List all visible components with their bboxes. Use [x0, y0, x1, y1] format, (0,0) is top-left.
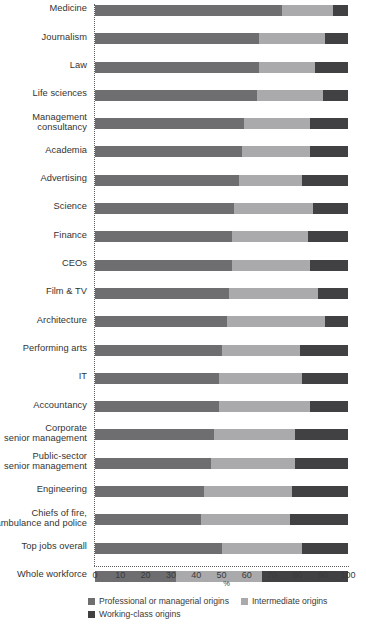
row-label: Chiefs of fire, ambulance and police: [0, 508, 87, 528]
bar-segment-professional: [95, 231, 232, 242]
stacked-bar: [95, 514, 348, 525]
chart-row: Public-sector senior management: [0, 453, 366, 481]
stacked-bar: [95, 316, 348, 327]
bar-segment-professional: [95, 146, 242, 157]
bar-segment-intermediate: [222, 345, 300, 356]
bar-segment-intermediate: [282, 5, 333, 16]
stacked-bar: [95, 118, 348, 129]
stacked-bar: [95, 203, 348, 214]
row-label: CEOs: [0, 258, 87, 268]
bar-segment-professional: [95, 316, 227, 327]
bar-segment-intermediate: [257, 90, 323, 101]
bar-segment-working: [310, 118, 348, 129]
chart-row: Accountancy: [0, 396, 366, 424]
bar-segment-professional: [95, 90, 257, 101]
chart-row: IT: [0, 368, 366, 396]
row-label: Public-sector senior management: [0, 451, 87, 471]
chart-row: Engineering: [0, 481, 366, 509]
legend-label-working: Working-class origins: [99, 609, 181, 619]
stacked-bar: [95, 62, 348, 73]
stacked-bar: [95, 543, 348, 554]
bar-segment-working: [325, 33, 348, 44]
bar-segment-intermediate: [222, 543, 303, 554]
chart-row: Medicine: [0, 0, 366, 28]
row-label: Top jobs overall: [0, 541, 87, 551]
legend-label-professional: Professional or managerial origins: [99, 596, 229, 606]
chart-row: Journalism: [0, 28, 366, 56]
chart-row: Film & TV: [0, 283, 366, 311]
stacked-bar: [95, 401, 348, 412]
bar-segment-working: [290, 514, 348, 525]
bar-segment-professional: [95, 260, 232, 271]
zero-baseline: [94, 4, 95, 566]
legend-label-intermediate: Intermediate origins: [252, 596, 327, 606]
stacked-bar: [95, 231, 348, 242]
bar-segment-professional: [95, 543, 222, 554]
bar-segment-intermediate: [234, 203, 312, 214]
stacked-bar: [95, 429, 348, 440]
chart-row: CEOs: [0, 255, 366, 283]
bar-segment-professional: [95, 203, 234, 214]
row-label: IT: [0, 371, 87, 381]
stacked-bar: [95, 288, 348, 299]
row-label: Academia: [0, 145, 87, 155]
bar-segment-intermediate: [227, 316, 326, 327]
bar-segment-intermediate: [219, 373, 302, 384]
bar-segment-working: [318, 288, 348, 299]
bar-segment-professional: [95, 458, 211, 469]
bar-segment-professional: [95, 373, 219, 384]
chart-row: Architecture: [0, 311, 366, 339]
bar-segment-professional: [95, 118, 244, 129]
chart-row: Finance: [0, 226, 366, 254]
bar-segment-working: [295, 458, 348, 469]
legend-swatch-working-icon: [88, 611, 95, 618]
row-label: Architecture: [0, 315, 87, 325]
chart-legend: Professional or managerial origins Inter…: [88, 596, 366, 622]
bar-segment-intermediate: [214, 429, 295, 440]
row-label: Film & TV: [0, 286, 87, 296]
bar-segment-working: [310, 260, 348, 271]
bar-segment-working: [295, 429, 348, 440]
bar-segment-intermediate: [219, 401, 310, 412]
bar-segment-intermediate: [211, 458, 294, 469]
legend-item-intermediate: Intermediate origins: [241, 596, 327, 606]
bar-segment-intermediate: [232, 260, 310, 271]
bar-segment-professional: [95, 429, 214, 440]
row-label: Performing arts: [0, 343, 87, 353]
x-axis-unit-label: %: [212, 579, 242, 588]
row-label: Finance: [0, 230, 87, 240]
x-axis-line: [94, 566, 349, 567]
bar-segment-working: [333, 5, 348, 16]
bar-segment-intermediate: [259, 62, 315, 73]
bar-segment-professional: [95, 33, 259, 44]
bar-segment-working: [310, 401, 348, 412]
stacked-bar: [95, 458, 348, 469]
bar-segment-intermediate: [232, 231, 308, 242]
stacked-bar: [95, 90, 348, 101]
row-label: Journalism: [0, 32, 87, 42]
stacked-bar: [95, 486, 348, 497]
x-tick-label: 100: [333, 570, 363, 580]
bar-segment-working: [323, 90, 348, 101]
bar-segment-intermediate: [244, 118, 310, 129]
chart-row: Academia: [0, 141, 366, 169]
chart-row: Law: [0, 57, 366, 85]
bar-segment-working: [313, 203, 348, 214]
x-axis-ticks: 0102030405060708090100: [0, 570, 366, 584]
bar-segment-professional: [95, 401, 219, 412]
chart-row: Chiefs of fire, ambulance and police: [0, 509, 366, 537]
stacked-bar: [95, 175, 348, 186]
row-label: Engineering: [0, 484, 87, 494]
bar-segment-professional: [95, 175, 239, 186]
bar-segment-professional: [95, 486, 204, 497]
bar-segment-professional: [95, 514, 201, 525]
row-label: Medicine: [0, 3, 87, 13]
legend-item-working: Working-class origins: [88, 609, 181, 619]
bar-segment-professional: [95, 5, 282, 16]
row-label: Life sciences: [0, 88, 87, 98]
bar-segment-intermediate: [204, 486, 293, 497]
row-label: Science: [0, 201, 87, 211]
legend-row-2: Working-class origins: [88, 609, 366, 619]
legend-item-professional: Professional or managerial origins: [88, 596, 229, 606]
chart-row: Corporate senior management: [0, 424, 366, 452]
